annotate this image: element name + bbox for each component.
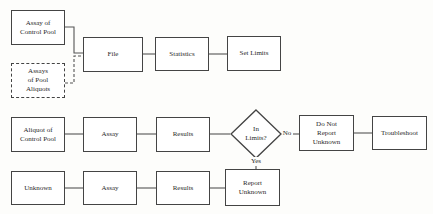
- node-file: File: [83, 37, 143, 72]
- node-set-limits: Set Limits: [227, 36, 281, 71]
- node-statistics: Statistics: [155, 37, 209, 71]
- node-unknown: Unknown: [11, 171, 65, 205]
- node-assay-row3: Assay: [83, 171, 137, 205]
- node-assay-of-control-pool: Assay of Control Pool: [11, 10, 65, 45]
- node-troubleshoot: Troubleshoot: [372, 116, 427, 150]
- node-aliquot-of-control-pool: Aliquot of Control Pool: [11, 117, 65, 152]
- node-assays-of-pool-aliquots: Assays of Pool Aliquots: [11, 63, 65, 98]
- decision-in-limits-label: In Limits?: [236, 125, 276, 143]
- node-report-unknown: Report Unknown: [225, 169, 280, 206]
- node-results-row3: Results: [156, 171, 210, 205]
- node-assay-row2: Assay: [83, 117, 137, 152]
- decision-yes-label: Yes: [248, 157, 264, 166]
- node-do-not-report-unknown: Do Not Report Unknown: [299, 115, 354, 151]
- decision-no-label: No: [281, 129, 293, 138]
- node-results-row2: Results: [156, 117, 210, 152]
